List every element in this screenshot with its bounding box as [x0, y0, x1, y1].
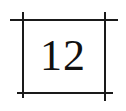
bottom-line — [17, 92, 113, 94]
top-line — [10, 19, 118, 21]
cell-number-label: 12 — [0, 34, 126, 78]
